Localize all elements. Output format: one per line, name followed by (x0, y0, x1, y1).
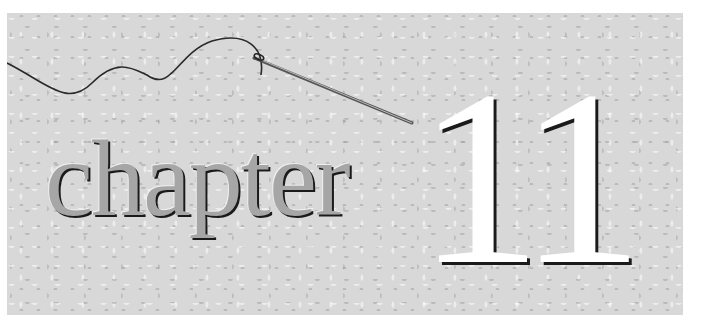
chapter-number: 11 (417, 53, 630, 303)
chapter-banner-panel: chapter 11 (7, 13, 683, 315)
thread (7, 38, 262, 93)
chapter-label: chapter (45, 125, 349, 233)
